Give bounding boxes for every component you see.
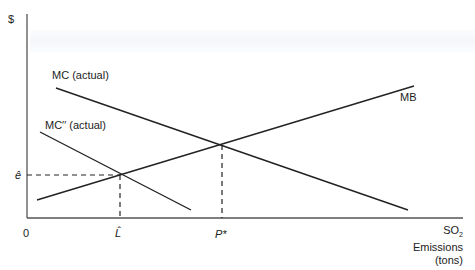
mc2-actual-line bbox=[40, 132, 191, 210]
mc-actual-line bbox=[56, 88, 408, 210]
mb-line bbox=[37, 86, 414, 200]
x-axis-label-subscript: 2 bbox=[459, 231, 463, 238]
mc-actual-label: MC (actual) bbox=[52, 70, 109, 81]
e-hat-label: ê bbox=[15, 170, 21, 181]
mc2-actual-label: MC′′ (actual) bbox=[45, 120, 106, 131]
mb-label: MB bbox=[400, 92, 417, 103]
y-axis-label: $ bbox=[8, 14, 14, 25]
origin-label: 0 bbox=[23, 228, 29, 239]
p-star-label: P* bbox=[215, 229, 227, 240]
x-axis-label-units: (tons) bbox=[413, 254, 463, 267]
l-hat-label: L̂ bbox=[115, 228, 121, 239]
x-axis-label-emissions: Emissions bbox=[413, 241, 463, 254]
x-axis-label: SO2 Emissions (tons) bbox=[413, 224, 463, 267]
diagram-canvas bbox=[0, 0, 475, 270]
x-axis-label-so: SO bbox=[443, 224, 459, 236]
